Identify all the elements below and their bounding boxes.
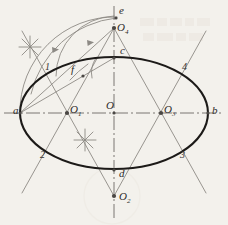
label-center-o2-letter: O	[119, 190, 127, 202]
label-point-f: f	[71, 64, 74, 75]
point-o4-marker	[112, 26, 116, 30]
label-point-d: d	[119, 168, 125, 179]
page-bleedthrough	[84, 18, 210, 224]
label-point-b: b	[212, 105, 218, 116]
arrowhead-inner-arc	[87, 40, 94, 46]
label-construction-line-2: 2	[40, 150, 45, 160]
point-d-marker	[112, 168, 115, 171]
arc-center-c-radius-ce	[56, 16, 114, 76]
point-o-marker	[112, 111, 115, 114]
label-center-o1-subscript: 1	[78, 110, 82, 118]
label-center-o: O	[106, 100, 114, 111]
point-e-marker	[114, 16, 117, 19]
label-point-e: e	[119, 5, 124, 16]
label-center-o2-subscript: 2	[127, 197, 131, 205]
label-center-o3: O3	[164, 104, 175, 118]
point-b-marker	[206, 111, 209, 114]
label-center-o4-subscript: 4	[125, 28, 129, 36]
compass-cross-upper-left	[19, 36, 41, 58]
label-point-a: a	[13, 105, 19, 116]
ellipse-construction-figure	[0, 0, 228, 225]
label-center-o3-subscript: 3	[172, 110, 176, 118]
label-construction-line-3: 3	[180, 150, 185, 160]
label-construction-line-4: 4	[182, 62, 187, 72]
label-construction-line-1: 1	[45, 62, 50, 72]
point-f-marker	[81, 74, 84, 77]
construction-lines	[19, 28, 206, 196]
label-center-o3-letter: O	[164, 103, 172, 115]
label-center-o1: O1	[70, 104, 81, 118]
compass-cross-lower-center	[74, 129, 96, 151]
arc-e-to-left	[31, 18, 116, 94]
chord-a-to-c	[20, 58, 114, 113]
label-center-o4-letter: O	[117, 21, 125, 33]
point-c-marker	[112, 56, 115, 59]
label-point-c: c	[120, 45, 125, 56]
label-center-o1-letter: O	[70, 103, 78, 115]
point-o1-marker	[65, 111, 69, 115]
point-o3-marker	[159, 111, 163, 115]
point-o2-marker	[112, 194, 116, 198]
label-center-o2: O2	[119, 191, 130, 205]
arc-arrowheads	[52, 40, 94, 53]
label-center-o4: O4	[117, 22, 128, 36]
